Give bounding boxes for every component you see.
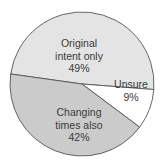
label-line: Unsure (111, 78, 151, 91)
label-value: 9% (111, 91, 151, 104)
label-line: Changing (44, 106, 114, 119)
label-line: intent only (44, 50, 114, 63)
label-value: 49% (44, 62, 114, 75)
label-changing-times: Changing times also 42% (44, 106, 114, 144)
label-original-intent: Original intent only 49% (44, 37, 114, 75)
label-value: 42% (44, 131, 114, 144)
label-line: Original (44, 37, 114, 50)
label-unsure: Unsure 9% (111, 78, 151, 103)
label-line: times also (44, 119, 114, 132)
